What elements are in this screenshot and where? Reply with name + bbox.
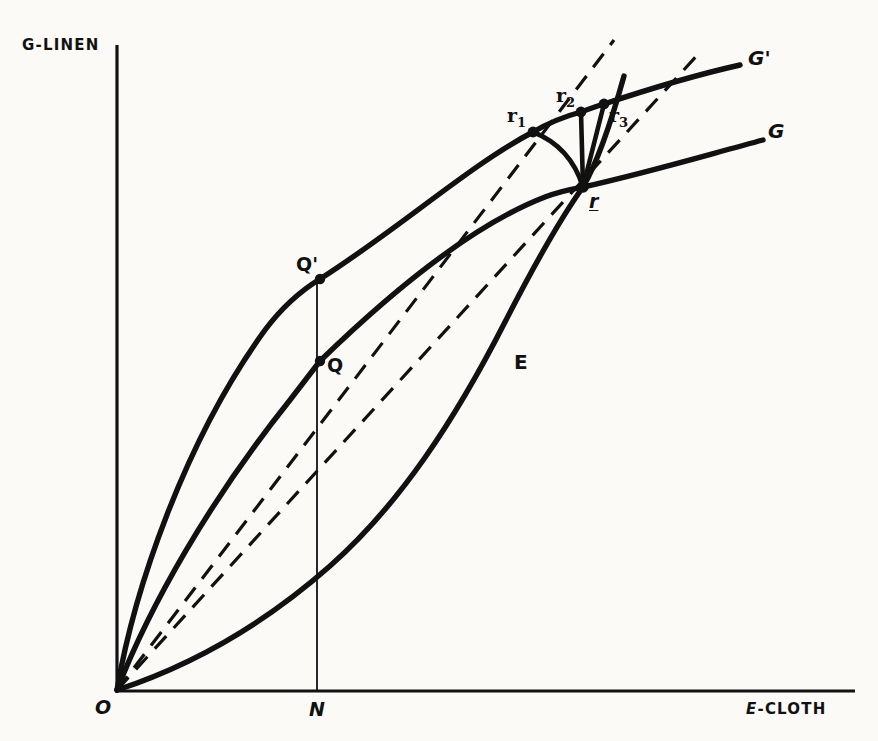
diagram-canvas [0, 0, 878, 741]
n-label: N [309, 700, 325, 719]
point-q-prime [315, 274, 325, 284]
r2-base: r [556, 84, 566, 106]
axes-group [115, 45, 855, 691]
r2-subscript: 2 [566, 95, 575, 110]
x-axis-label-rest: -CLOTH [757, 700, 826, 718]
r3-base: r [609, 104, 619, 126]
economics-diagram: G-LINEN E-CLOTH O N Q' Q r1 r2 r3 r G' G… [0, 0, 878, 741]
curve-label-g-prime: G' [748, 48, 771, 68]
point-q [315, 356, 325, 366]
r1-base: r [507, 104, 517, 126]
r-label-text: r [589, 190, 598, 212]
r3-label: r3 [609, 106, 628, 129]
curve-E [117, 76, 624, 690]
x-axis-label: E-CLOTH [746, 702, 826, 717]
segment-r-to-r2 [581, 112, 583, 187]
point-r [577, 181, 589, 193]
x-axis-label-italic-part: E [746, 700, 757, 718]
q-prime-label: Q' [296, 255, 318, 274]
point-r2 [576, 107, 587, 118]
r2-label: r2 [556, 86, 575, 109]
r3-subscript: 3 [619, 115, 628, 130]
q-label: Q [327, 356, 343, 375]
dashed-rays-group [117, 40, 702, 690]
point-r3 [599, 99, 610, 110]
curve-label-e: E [514, 352, 528, 372]
dashed-ray-steep [117, 40, 614, 690]
curve-label-g: G [768, 121, 784, 141]
r1-subscript: 1 [517, 115, 526, 130]
y-axis-label: G-LINEN [22, 38, 99, 53]
origin-label: O [95, 698, 111, 717]
arc-r1-to-r [533, 132, 583, 187]
point-r1 [528, 127, 539, 138]
curve-G-prime [117, 65, 740, 690]
r1-label: r1 [507, 106, 526, 129]
r-label: r [589, 192, 598, 211]
dashed-ray-shallow [117, 50, 702, 690]
